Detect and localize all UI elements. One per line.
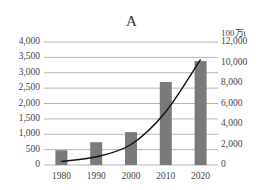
x-axis-tick-label: 1990 [81,171,111,181]
left-axis-tick-label: 2,500 [0,82,40,92]
left-axis-tick-label: 1,000 [0,128,40,138]
right-axis-tick-label: 0 [221,159,226,169]
left-axis-tick-label: 2,000 [0,98,40,108]
bar [125,132,137,165]
bar [160,82,172,165]
right-axis-tick-label: 8,000 [221,77,242,87]
left-axis-tick-label: 0 [0,159,40,169]
right-axis-tick-label: 12,000 [221,36,247,46]
bar [55,150,67,165]
right-axis-tick-label: 10,000 [221,57,247,67]
left-axis-tick-label: 4,000 [0,36,40,46]
left-axis-tick-label: 3,500 [0,51,40,61]
right-axis-tick-label: 2,000 [221,139,242,149]
combo-chart: A 100万t 05001,0001,5002,0002,5003,0003,5… [0,0,263,190]
right-axis-tick-label: 6,000 [221,98,242,108]
bar [90,142,102,165]
left-axis-tick-label: 500 [0,144,40,154]
bar [195,61,207,165]
x-axis-tick-label: 2020 [186,171,216,181]
x-axis-tick-label: 2000 [116,171,146,181]
x-axis-tick-label: 2010 [151,171,181,181]
left-axis-tick-label: 1,500 [0,113,40,123]
x-axis-tick-label: 1980 [46,171,76,181]
left-axis-tick-label: 3,000 [0,67,40,77]
right-axis-tick-label: 4,000 [221,118,242,128]
